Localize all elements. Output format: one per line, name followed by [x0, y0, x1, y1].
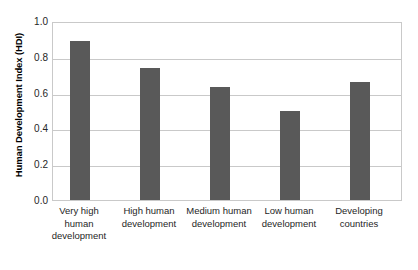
x-tick-label-medium-human-development: Medium human development: [184, 205, 254, 230]
y-tick-label: 0.8: [22, 53, 48, 63]
gridline: [53, 59, 401, 60]
y-tick-label: 0.2: [22, 160, 48, 170]
bar-medium-human-development: [210, 87, 230, 200]
plot-area: [52, 22, 402, 201]
y-tick-label: 0.4: [22, 124, 48, 134]
x-tick-label-low-human-development: Low human development: [254, 205, 324, 230]
bar-low-human-development: [280, 111, 300, 201]
x-axis-tick-labels: Very high human development High human d…: [52, 205, 402, 267]
bar-developing-countries: [350, 82, 370, 200]
y-axis-tick-labels: 1.0 0.8 0.6 0.4 0.2 0.0: [20, 22, 48, 201]
y-tick-label: 0.6: [22, 89, 48, 99]
chart-figure: Human Development Index (HDI) 1.0 0.8 0.…: [0, 0, 418, 270]
bar-high-human-development: [140, 68, 160, 201]
x-tick-label-high-human-development: High human development: [114, 205, 184, 230]
x-tick-label-very-high-human-development: Very high human development: [44, 205, 114, 243]
x-tick-label-developing-countries: Developing countries: [324, 205, 394, 230]
y-tick-label: 1.0: [22, 17, 48, 27]
bar-very-high-human-development: [70, 41, 90, 200]
